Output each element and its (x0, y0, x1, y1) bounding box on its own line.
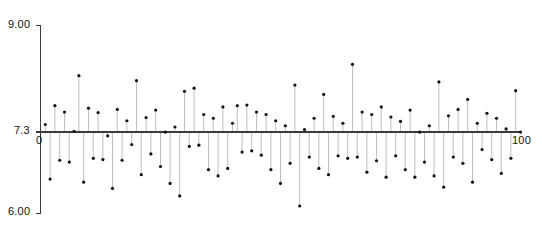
data-point-marker (231, 122, 234, 125)
data-point-marker (193, 87, 196, 90)
data-point-marker (87, 107, 90, 110)
data-point-marker (202, 113, 205, 116)
data-point-marker (255, 110, 258, 113)
data-point-marker (207, 168, 210, 171)
data-point-marker (73, 130, 76, 133)
data-point-marker (159, 165, 162, 168)
stem-plot-chart: 9.00 7.3 6.00 0 100 (0, 0, 542, 231)
data-point-marker (437, 80, 440, 83)
data-point-marker (495, 117, 498, 120)
data-point-marker (327, 173, 330, 176)
data-point-marker (442, 186, 445, 189)
data-point-marker (452, 156, 455, 159)
data-point-marker (500, 172, 503, 175)
data-point-marker (380, 105, 383, 108)
data-point-marker (433, 174, 436, 177)
data-point-marker (413, 176, 416, 179)
data-point-marker (317, 167, 320, 170)
data-point-marker (490, 158, 493, 161)
data-point-marker (514, 89, 517, 92)
data-point-marker (145, 116, 148, 119)
data-point-marker (303, 128, 306, 131)
data-point-marker (97, 111, 100, 114)
data-point-marker (197, 144, 200, 147)
data-point-marker (346, 157, 349, 160)
data-point-marker (63, 110, 66, 113)
data-point-marker (49, 177, 52, 180)
data-point-marker (154, 109, 157, 112)
data-point-marker (394, 154, 397, 157)
data-point-marker (418, 130, 421, 133)
data-point-marker (375, 159, 378, 162)
data-point-marker (217, 174, 220, 177)
data-point-marker (269, 168, 272, 171)
data-point-marker (164, 130, 167, 133)
data-point-marker (476, 122, 479, 125)
data-point-marker (149, 152, 152, 155)
data-point-marker (92, 157, 95, 160)
data-point-marker (361, 110, 364, 113)
data-point-marker (135, 79, 138, 82)
data-point-marker (169, 182, 172, 185)
data-point-marker (385, 176, 388, 179)
data-point-marker (250, 149, 253, 152)
data-point-marker (188, 145, 191, 148)
data-point-marker (82, 181, 85, 184)
data-point-marker (212, 117, 215, 120)
data-point-marker (111, 187, 114, 190)
plot-canvas (0, 0, 542, 231)
data-point-marker (106, 134, 109, 137)
y-axis-tick-label-min: 6.00 (8, 205, 30, 217)
data-point-marker (485, 112, 488, 115)
data-point-marker (44, 123, 47, 126)
data-point-marker (365, 171, 368, 174)
data-point-marker (428, 124, 431, 127)
data-point-marker (236, 104, 239, 107)
data-point-marker (265, 113, 268, 116)
data-point-marker (279, 182, 282, 185)
data-point-marker (125, 119, 128, 122)
data-point-marker (101, 158, 104, 161)
data-point-marker (178, 194, 181, 197)
data-point-marker (370, 113, 373, 116)
data-point-marker (332, 115, 335, 118)
data-point-marker (308, 156, 311, 159)
markers-group (44, 63, 522, 208)
data-point-marker (293, 83, 296, 86)
x-axis-tick-label-start: 0 (36, 134, 42, 146)
data-point-marker (399, 120, 402, 123)
data-point-marker (337, 154, 340, 157)
data-point-marker (466, 98, 469, 101)
data-point-marker (322, 93, 325, 96)
data-point-marker (245, 103, 248, 106)
data-point-marker (356, 156, 359, 159)
y-axis-tick-label-max: 9.00 (8, 18, 30, 30)
data-point-marker (341, 122, 344, 125)
data-point-marker (260, 154, 263, 157)
data-point-marker (505, 127, 508, 130)
stems-group (45, 64, 520, 206)
data-point-marker (173, 125, 176, 128)
data-point-marker (447, 114, 450, 117)
data-point-marker (351, 63, 354, 66)
data-point-marker (221, 105, 224, 108)
data-point-marker (53, 104, 56, 107)
data-point-marker (68, 161, 71, 164)
data-point-marker (130, 143, 133, 146)
data-point-marker (509, 157, 512, 160)
data-point-marker (274, 119, 277, 122)
data-point-marker (241, 150, 244, 153)
data-point-marker (183, 90, 186, 93)
data-point-marker (313, 117, 316, 120)
data-point-marker (289, 162, 292, 165)
data-point-marker (284, 124, 287, 127)
data-point-marker (457, 108, 460, 111)
data-point-marker (58, 159, 61, 162)
data-point-marker (461, 162, 464, 165)
data-point-marker (121, 159, 124, 162)
y-axis-tick-label-baseline: 7.3 (14, 124, 30, 136)
data-point-marker (423, 161, 426, 164)
data-point-marker (481, 148, 484, 151)
data-point-marker (389, 115, 392, 118)
data-point-marker (116, 108, 119, 111)
